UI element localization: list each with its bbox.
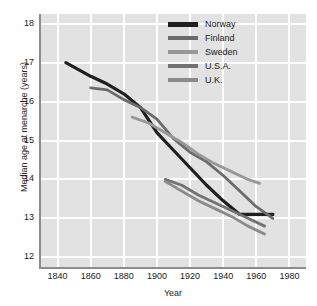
- y-tick-label: 14: [4, 173, 34, 183]
- legend-item[interactable]: Finland: [168, 31, 264, 45]
- legend-item[interactable]: U.K.: [168, 73, 264, 87]
- legend-swatch-icon: [168, 36, 198, 40]
- legend-item-label: U.S.A.: [205, 61, 231, 71]
- x-tick-label: 1980: [269, 271, 309, 281]
- y-tick-label: 16: [4, 96, 34, 106]
- x-axis-line: [39, 267, 306, 269]
- legend-item-label: Norway: [205, 19, 236, 29]
- legend-item-label: U.K.: [205, 75, 223, 85]
- legend-swatch-icon: [168, 64, 198, 68]
- chart-container: Median age at menarche (years) 121314151…: [0, 0, 317, 306]
- series-line-uk: [165, 181, 264, 234]
- legend-item[interactable]: Sweden: [168, 45, 264, 59]
- y-tick-label: 13: [4, 212, 34, 222]
- legend-swatch-icon: [168, 78, 198, 82]
- legend: NorwayFinlandSwedenU.S.A.U.K.: [168, 17, 264, 87]
- legend-item[interactable]: Norway: [168, 17, 264, 31]
- y-axis-title: Median age at menarche (years): [19, 17, 29, 237]
- legend-swatch-icon: [168, 22, 198, 27]
- y-axis-line: [39, 14, 41, 268]
- y-tick-label: 18: [4, 18, 34, 28]
- series-line-finland: [91, 88, 273, 218]
- legend-item[interactable]: U.S.A.: [168, 59, 264, 73]
- legend-swatch-icon: [168, 50, 198, 54]
- legend-item-label: Finland: [205, 33, 235, 43]
- y-tick-label: 17: [4, 57, 34, 67]
- x-axis-title: Year: [41, 288, 305, 298]
- y-tick-label: 12: [4, 251, 34, 261]
- series-line-usa: [165, 179, 264, 226]
- legend-item-label: Sweden: [205, 47, 238, 57]
- y-tick-label: 15: [4, 135, 34, 145]
